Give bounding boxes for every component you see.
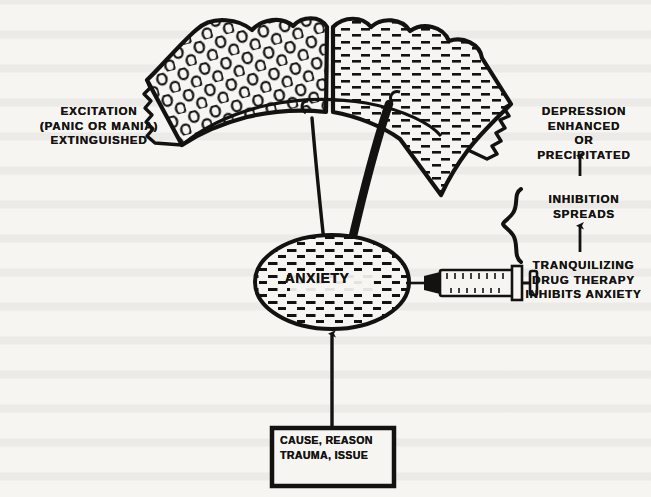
syringe-hub xyxy=(424,272,440,294)
depression-sector-shape xyxy=(333,19,511,195)
anxiety-inhibition-diagram xyxy=(0,0,651,497)
label-anxiety: ANXIETY xyxy=(262,270,372,288)
label-excitation: EXCITATION (PANIC OR MANIA) EXTINGUISHED xyxy=(6,104,192,148)
label-depression: DEPRESSION ENHANCED OR PRECIPITATED xyxy=(520,104,648,163)
label-inhibition-spreads: INHIBITION SPREADS xyxy=(520,192,648,221)
label-tranquilizing-drug-therapy: TRANQUILIZING DRUG THERAPY INHIBITS ANXI… xyxy=(516,258,651,302)
depression-sector xyxy=(333,19,511,195)
figure-page: EXCITATION (PANIC OR MANIA) EXTINGUISHED… xyxy=(0,0,651,497)
curly-brace xyxy=(503,189,521,262)
label-cause-reason-trauma-issue: CAUSE, REASON TRAUMA, ISSUE xyxy=(280,433,390,463)
